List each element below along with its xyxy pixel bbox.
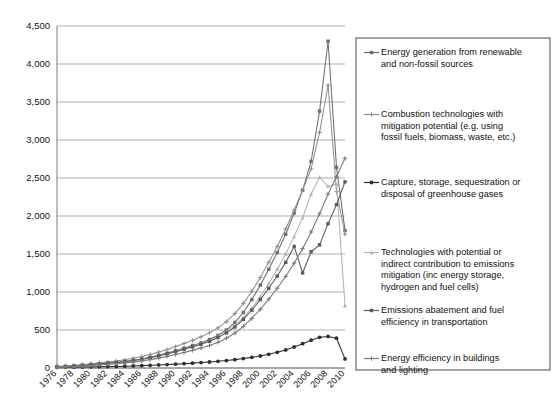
data-point <box>318 109 321 112</box>
x-tick-label: 1994 <box>190 368 211 389</box>
data-point <box>335 166 338 169</box>
data-point <box>309 230 313 234</box>
data-point <box>225 359 229 363</box>
data-point <box>207 343 211 347</box>
legend-label-line: Energy efficiency in buildings <box>381 353 500 363</box>
data-point <box>216 336 219 339</box>
data-point <box>370 309 373 312</box>
data-point <box>267 268 270 271</box>
data-point <box>284 233 287 236</box>
x-tick-label: 2008 <box>308 368 329 389</box>
data-point <box>199 343 202 346</box>
data-point <box>208 360 212 364</box>
series-2 <box>55 83 347 369</box>
x-tick-label: 2004 <box>274 368 295 389</box>
data-point <box>242 311 245 314</box>
legend-label-line: Technologies with potential or <box>381 247 502 257</box>
data-point <box>131 364 135 368</box>
data-point <box>173 344 177 348</box>
data-point <box>326 335 330 339</box>
legend-item-2[interactable]: Combustion technologies withmitigation p… <box>364 109 515 142</box>
y-axis-tick-labels: 05001,0001,5002,0002,5003,0003,5004,0004… <box>26 20 50 373</box>
legend-label-line: disposal of greenhouse gases <box>381 189 503 199</box>
data-point <box>165 347 169 351</box>
data-point <box>309 250 312 253</box>
y-tick-label: 2,000 <box>26 210 50 221</box>
data-point <box>309 338 313 342</box>
legend-label-line: fossil fuels, biomass, waste, etc.) <box>381 132 515 142</box>
legend-label-line: indirect contribution to emissions <box>381 259 515 269</box>
data-point <box>276 251 279 254</box>
data-point <box>292 234 296 238</box>
data-point <box>267 287 270 290</box>
data-point <box>259 298 262 301</box>
data-point <box>182 362 186 366</box>
x-tick-label: 2006 <box>291 368 312 389</box>
chart-container: 05001,0001,5002,0002,5003,0003,5004,0004… <box>0 0 553 402</box>
data-point <box>216 359 220 363</box>
data-point <box>335 182 339 186</box>
y-tick-label: 3,500 <box>26 96 50 107</box>
series-layer <box>55 40 347 370</box>
legend-label-line: and non-fossil sources <box>381 59 473 69</box>
data-point <box>309 192 313 196</box>
data-point <box>276 274 279 277</box>
data-point <box>267 352 271 356</box>
data-point <box>318 243 321 246</box>
data-point <box>267 260 271 264</box>
data-point <box>318 175 322 179</box>
series-1 <box>55 40 346 369</box>
data-point <box>165 363 169 367</box>
data-point <box>191 345 194 348</box>
data-point <box>318 335 322 339</box>
legend-label-line: efficiency in transportation <box>381 317 488 327</box>
data-point <box>326 222 329 225</box>
data-point <box>370 181 374 185</box>
data-point <box>199 346 203 350</box>
data-point <box>326 192 330 196</box>
data-point <box>284 348 288 352</box>
y-tick-label: 3,000 <box>26 134 50 145</box>
x-tick-label: 2002 <box>257 368 278 389</box>
x-tick-label: 1982 <box>88 368 109 389</box>
legend-label-line: mitigation potential (e.g. using <box>381 121 503 131</box>
y-tick-label: 4,500 <box>26 20 50 31</box>
data-point <box>208 340 211 343</box>
data-point <box>250 355 254 359</box>
data-point <box>225 331 228 334</box>
x-tick-label: 1980 <box>71 368 92 389</box>
data-point <box>343 156 347 160</box>
data-point <box>148 363 152 367</box>
data-point <box>199 335 203 339</box>
y-tick-label: 500 <box>34 324 50 335</box>
data-point <box>140 364 144 368</box>
line-chart: 05001,0001,5002,0002,5003,0003,5004,0004… <box>0 0 553 402</box>
x-tick-label: 2000 <box>240 368 261 389</box>
data-point <box>233 358 237 362</box>
data-point <box>326 83 330 87</box>
data-point <box>259 283 262 286</box>
data-point <box>301 271 304 274</box>
data-point <box>275 350 279 354</box>
x-tick-label: 1986 <box>122 368 143 389</box>
data-point <box>343 304 347 308</box>
x-tick-label: 2010 <box>325 368 346 389</box>
x-tick-label: 1998 <box>224 368 245 389</box>
y-tick-label: 1,000 <box>26 286 50 297</box>
data-point <box>300 246 304 250</box>
data-point <box>343 232 347 236</box>
data-point <box>292 345 296 349</box>
data-point <box>370 51 373 54</box>
legend-label-line: mitigation (inc energy storage, <box>381 270 504 280</box>
data-point <box>335 336 339 340</box>
data-point <box>233 325 236 328</box>
legend-item-5[interactable]: Emissions abatement and fuelefficiency i… <box>364 305 504 326</box>
data-point <box>292 245 295 248</box>
y-tick-label: 2,500 <box>26 172 50 183</box>
data-point <box>191 361 195 365</box>
data-point <box>182 341 186 345</box>
x-tick-label: 1996 <box>207 368 228 389</box>
data-point <box>174 362 178 366</box>
legend-item-3[interactable]: Capture, storage, sequestration ordispos… <box>364 177 520 198</box>
data-point <box>157 363 161 367</box>
